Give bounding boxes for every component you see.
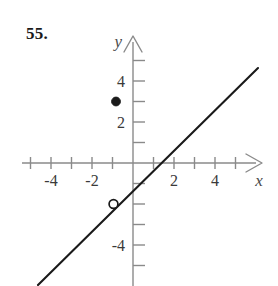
- closed-point-marker: [112, 97, 121, 106]
- x-tick-label-pos2: 2: [170, 172, 178, 189]
- y-tick-label-pos4: 4: [117, 73, 125, 90]
- plotted-line: [38, 68, 258, 285]
- x-tick-label-neg4: -4: [44, 172, 57, 189]
- x-axis-label: x: [254, 171, 263, 190]
- coordinate-plot: -4 -2 2 4 4 2 -4 y x: [0, 0, 278, 286]
- y-tick-label-neg4: -4: [112, 237, 125, 254]
- x-tick-label-neg2: -2: [85, 172, 98, 189]
- y-axis-label: y: [112, 32, 122, 51]
- y-tick-label-pos2: 2: [117, 114, 125, 131]
- open-point-marker: [109, 200, 118, 209]
- x-tick-label-pos4: 4: [211, 172, 219, 189]
- figure-container: 55.: [0, 0, 278, 286]
